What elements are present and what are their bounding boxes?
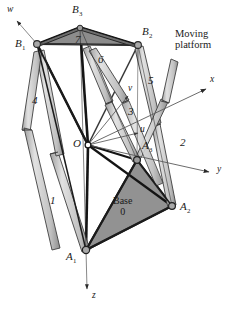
leg-5-label: 5 [148,75,154,87]
stewart-platform-figure: Moving platform Base 0 B1 B2 B3 A1 A2 A3… [0,0,238,312]
leg-3-label: 3 [128,106,134,118]
joint-label-a1-base: A [66,250,73,262]
leg-6-label: 6 [98,54,104,66]
base-caption-line2: 0 [120,206,125,217]
joint-label-a2: A2 [180,201,190,214]
moving-platform-caption-line2: platform [175,39,211,50]
leg-1-label: 1 [50,195,56,207]
joint-label-b3: B3 [72,4,82,17]
joint-label-a2-base: A [180,200,187,212]
leg-2-label: 2 [180,137,186,149]
joint-label-b1: B1 [15,38,25,51]
joint-label-b2-base: B [142,25,149,37]
joint-label-b2-sub: 2 [149,32,152,39]
joint-label-b2: B2 [142,26,152,39]
z-axis-line [86,250,87,289]
joint-label-a1-sub: 1 [73,257,76,264]
base-caption: Base 0 [113,196,132,217]
origin-label: O [73,138,81,150]
v-axis-label: v [128,84,132,94]
joint-label-b3-sub: 3 [79,10,82,17]
leg-4-label: 4 [32,95,38,107]
moving-platform-caption-line1: Moving [175,28,208,39]
joint-label-b1-sub: 1 [22,44,25,51]
moving-platform-caption: Moving platform [175,28,211,50]
joint-label-a2-sub: 2 [187,207,190,214]
leg-3-actuator [83,46,140,162]
w-axis-label: w [7,5,13,15]
joint-label-a1: A1 [66,251,76,264]
u-axis-label: u [140,125,145,135]
joint-label-a3-sub: 3 [149,146,152,153]
leg-7-label: 7 [75,34,81,46]
base-caption-line1: Base [113,195,132,206]
joint-label-b3-base: B [72,3,79,15]
x-axis-label: x [210,75,214,85]
joint-label-a3: A3 [142,140,152,153]
joint-label-b1-base: B [15,37,22,49]
joint-label-a3-base: A [142,139,149,151]
y-axis-label: y [217,165,221,175]
z-axis-label: z [92,291,96,301]
